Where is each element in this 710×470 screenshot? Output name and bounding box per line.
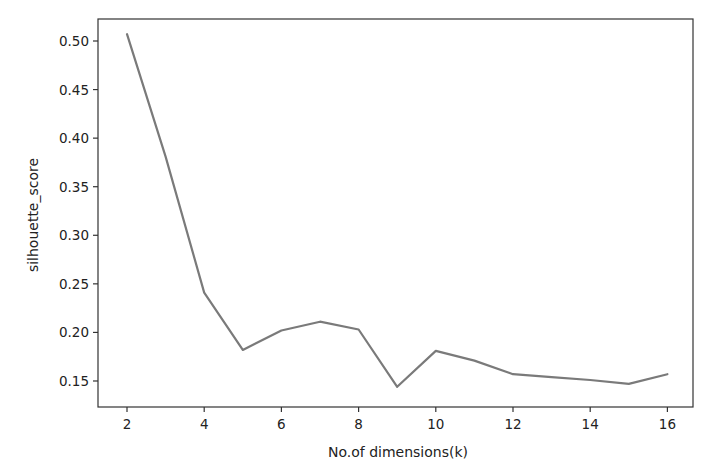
y-tick-label: 0.45 [59,82,89,98]
x-tick-label: 2 [123,416,132,432]
y-tick-label: 0.35 [59,179,89,195]
y-tick-label: 0.40 [59,130,89,146]
x-axis-label: No.of dimensions(k) [328,444,468,460]
x-tick-label: 6 [277,416,286,432]
y-tick-label: 0.20 [59,324,89,340]
y-tick-label: 0.25 [59,276,89,292]
series-line [127,34,667,387]
line-chart: 2468101214160.150.200.250.300.350.400.45… [0,0,710,470]
y-tick-label: 0.15 [59,373,89,389]
x-tick-label: 16 [659,416,676,432]
y-tick-label: 0.30 [59,227,89,243]
plot-area: 2468101214160.150.200.250.300.350.400.45… [59,19,693,432]
x-tick-label: 4 [200,416,209,432]
y-tick-label: 0.50 [59,33,89,49]
x-tick-label: 12 [504,416,521,432]
x-tick-label: 8 [354,416,363,432]
y-axis-label: silhouette_score [25,158,41,272]
x-tick-label: 10 [427,416,444,432]
x-tick-label: 14 [582,416,599,432]
axes-frame [98,19,693,407]
